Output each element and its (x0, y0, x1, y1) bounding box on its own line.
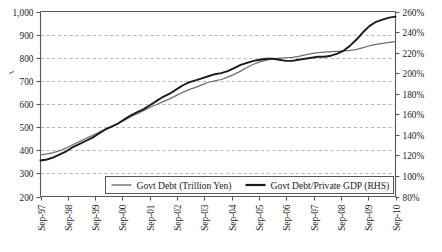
x-axis-label: Sep-08 (337, 204, 347, 231)
chart-legend: Govt Debt (Trillion Yen)Govt Debt/Privat… (106, 177, 394, 194)
x-axis-label: Sep-01 (146, 204, 156, 231)
y2-axis-label: 260% (403, 8, 425, 18)
series-line (41, 17, 396, 161)
y2-axis-label: 200% (403, 69, 425, 79)
x-axis-label: Sep-06 (282, 204, 292, 231)
legend-label-debt-ratio: Govt Debt/Private GDP (RHS) (271, 180, 390, 192)
gridlines (41, 36, 396, 174)
x-axis-label: Sep-00 (118, 204, 128, 231)
y2-axis-label: 240% (403, 28, 425, 38)
y-axis-label: 500 (20, 123, 34, 133)
y2-axis-label: 100% (403, 172, 425, 182)
stray-scan-artifact (9, 72, 14, 74)
x-axis-label: Sep-05 (255, 204, 265, 231)
x-axis-label: Sep-10 (392, 204, 402, 231)
line-chart: 2003004005006007008009001,000 80%100%120… (0, 0, 442, 252)
x-axis-label: Sep-09 (364, 204, 374, 231)
data-series (41, 17, 396, 161)
y2-axis-label: 160% (403, 110, 425, 120)
y-axis-label: 700 (20, 77, 34, 87)
y-axis-left-ticks: 2003004005006007008009001,000 (13, 8, 41, 203)
x-axis-label: Sep-99 (91, 204, 101, 231)
y2-axis-label: 140% (403, 131, 425, 141)
y-axis-label: 400 (20, 146, 34, 156)
y-axis-label: 1,000 (13, 8, 34, 18)
x-axis-label: Sep-98 (64, 204, 74, 231)
x-axis-label: Sep-02 (173, 204, 183, 231)
x-axis-label: Sep-97 (37, 204, 47, 231)
legend-label-govt-debt: Govt Debt (Trillion Yen) (137, 180, 232, 192)
y2-axis-label: 120% (403, 151, 425, 161)
y-axis-label: 300 (20, 169, 34, 179)
y2-axis-label: 80% (403, 193, 420, 203)
x-axis-label: Sep-04 (228, 204, 238, 231)
y-axis-label: 800 (20, 54, 34, 64)
y-axis-label: 600 (20, 100, 34, 110)
y-axis-label: 200 (20, 193, 34, 203)
x-axis-label: Sep-07 (310, 204, 320, 231)
y2-axis-label: 180% (403, 90, 425, 100)
y-axis-right-ticks: 80%100%120%140%160%180%200%220%240%260% (396, 8, 425, 203)
scan-speck (9, 72, 14, 74)
chart-container: 2003004005006007008009001,000 80%100%120… (0, 0, 442, 252)
x-axis-ticks: Sep-97Sep-98Sep-99Sep-00Sep-01Sep-02Sep-… (37, 197, 402, 231)
y-axis-label: 900 (20, 31, 34, 41)
plot-frame (41, 12, 396, 197)
y2-axis-label: 220% (403, 49, 425, 59)
x-axis-label: Sep-03 (200, 204, 210, 231)
